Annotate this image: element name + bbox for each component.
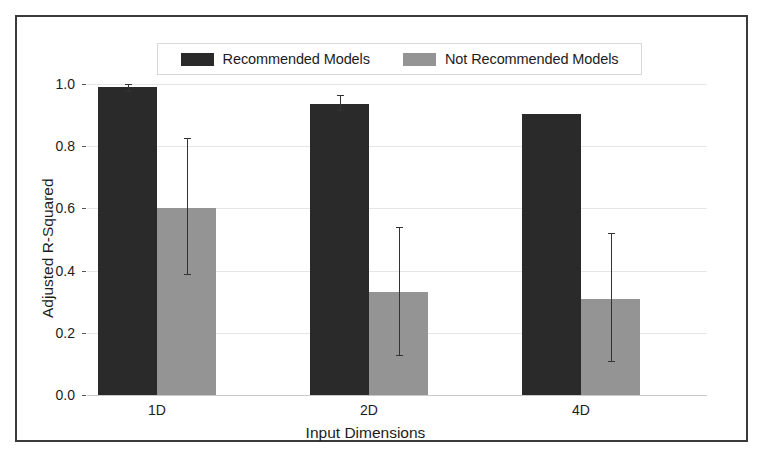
ytick-mark-0: [82, 395, 86, 396]
errorbar-2d-not-recommended: [399, 227, 400, 355]
ytick-label-4: 0.8: [29, 138, 75, 154]
errorbar-4d-not-recommended-cap-bottom: [608, 361, 615, 362]
errorbar-2d-not-recommended-cap-top: [396, 227, 403, 228]
axis-baseline: [87, 395, 707, 396]
legend-swatch-not-recommended: [403, 53, 436, 66]
errorbar-2d-recommended-cap-bottom: [337, 110, 344, 111]
xtick-label-4d: 4D: [572, 402, 590, 418]
legend-label-recommended: Recommended Models: [223, 51, 370, 67]
ytick-label-5: 1.0: [29, 76, 75, 92]
errorbar-4d-not-recommended: [611, 233, 612, 361]
errorbar-1d-recommended: [128, 84, 129, 91]
gridline-1: [87, 84, 707, 85]
plot-area: 0.00.20.40.60.81.0Adjusted R-Squared1D2D…: [17, 17, 750, 444]
ytick-mark-2: [82, 271, 86, 272]
figure-canvas: 0.00.20.40.60.81.0Adjusted R-Squared1D2D…: [0, 0, 757, 464]
chart-legend: Recommended Models Not Recommended Model…: [157, 43, 642, 75]
xtick-label-2d: 2D: [360, 402, 378, 418]
legend-entry-recommended: Recommended Models: [181, 51, 370, 67]
ytick-mark-4: [82, 146, 86, 147]
ytick-mark-3: [82, 208, 86, 209]
gridline-0-8: [87, 146, 707, 147]
legend-swatch-recommended: [181, 53, 214, 66]
ytick-label-0: 0.0: [29, 387, 75, 403]
ytick-mark-1: [82, 333, 86, 334]
errorbar-2d-not-recommended-cap-bottom: [396, 355, 403, 356]
errorbar-2d-recommended-cap-top: [337, 95, 344, 96]
errorbar-1d-not-recommended: [187, 138, 188, 274]
ytick-mark-5: [82, 84, 86, 85]
bar-4d-recommended[interactable]: [522, 114, 581, 395]
bar-2d-recommended[interactable]: [310, 104, 369, 395]
legend-entry-not-recommended: Not Recommended Models: [403, 51, 619, 67]
legend-label-not-recommended: Not Recommended Models: [445, 51, 619, 67]
bar-1d-recommended[interactable]: [98, 87, 157, 395]
errorbar-1d-not-recommended-cap-top: [184, 138, 191, 139]
x-axis-label: Input Dimensions: [0, 424, 732, 442]
figure-frame: 0.00.20.40.60.81.0Adjusted R-Squared1D2D…: [15, 15, 748, 442]
errorbar-2d-recommended: [340, 95, 341, 111]
errorbar-1d-recommended-cap-top: [125, 84, 132, 85]
xtick-label-1d: 1D: [148, 402, 166, 418]
errorbar-1d-not-recommended-cap-bottom: [184, 274, 191, 275]
errorbar-4d-not-recommended-cap-top: [608, 233, 615, 234]
y-axis-label: Adjusted R-Squared: [39, 178, 57, 318]
errorbar-1d-recommended-cap-bottom: [125, 91, 132, 92]
ytick-label-1: 0.2: [29, 325, 75, 341]
